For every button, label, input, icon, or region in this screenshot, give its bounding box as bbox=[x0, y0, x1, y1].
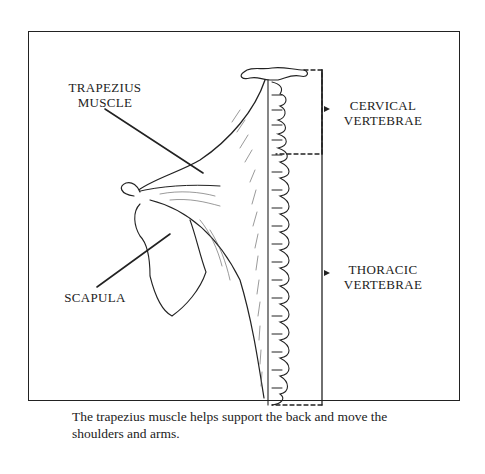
trapezius-illustration bbox=[0, 0, 485, 474]
scapula-leader bbox=[97, 234, 170, 287]
figure-caption: The trapezius muscle helps support the b… bbox=[72, 408, 432, 442]
label-line: VERTEBRAE bbox=[333, 113, 433, 128]
thoracic-vertebrae-label: THORACIC VERTEBRAE bbox=[333, 262, 433, 292]
label-line: VERTEBRAE bbox=[333, 277, 433, 292]
trapezius-leader bbox=[105, 109, 203, 173]
trapezius-muscle-label: TRAPEZIUS MUSCLE bbox=[60, 80, 150, 110]
label-line: MUSCLE bbox=[60, 95, 150, 110]
cervical-vertebrae-label: CERVICAL VERTEBRAE bbox=[333, 98, 433, 128]
label-line: CERVICAL bbox=[333, 98, 433, 113]
spine bbox=[268, 80, 289, 405]
label-line: TRAPEZIUS bbox=[60, 80, 150, 95]
scapula-label: SCAPULA bbox=[55, 290, 135, 305]
label-line: THORACIC bbox=[333, 262, 433, 277]
